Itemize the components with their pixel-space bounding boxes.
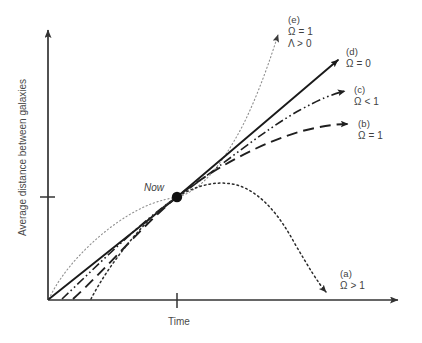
curve-b-tag: (b) [358, 118, 383, 130]
curve-e-label: (e) Ω = 1 Λ > 0 [288, 14, 313, 50]
curve-b-condition: Ω = 1 [358, 130, 383, 142]
x-axis-title: Time [168, 316, 190, 327]
curve-c-label: (c) Ω < 1 [354, 84, 379, 108]
curve-b-label: (b) Ω = 1 [358, 118, 383, 142]
curve-a-tag: (a) [340, 268, 365, 280]
now-point-marker [172, 192, 182, 202]
curve-e-condition-lambda: Λ > 0 [288, 38, 313, 50]
curve-d-tag: (d) [346, 46, 371, 58]
curve-e-lambda-positive [49, 35, 278, 299]
y-axis-title: Average distance between galaxies [17, 58, 28, 258]
curve-d-empty-universe [49, 60, 338, 299]
curve-d-condition: Ω = 0 [346, 58, 371, 70]
curve-b-critical-universe [73, 124, 348, 299]
curve-c-tag: (c) [354, 84, 379, 96]
curve-a-closed-universe [91, 183, 326, 299]
expansion-scenarios-figure: Average distance between galaxies Time N… [0, 0, 422, 343]
now-annotation-label: Now [144, 182, 164, 193]
curve-a-label: (a) Ω > 1 [340, 268, 365, 292]
curve-e-tag: (e) [288, 14, 313, 26]
curve-d-label: (d) Ω = 0 [346, 46, 371, 70]
curve-a-condition: Ω > 1 [340, 280, 365, 292]
curve-c-condition: Ω < 1 [354, 96, 379, 108]
curve-e-condition-omega: Ω = 1 [288, 26, 313, 38]
